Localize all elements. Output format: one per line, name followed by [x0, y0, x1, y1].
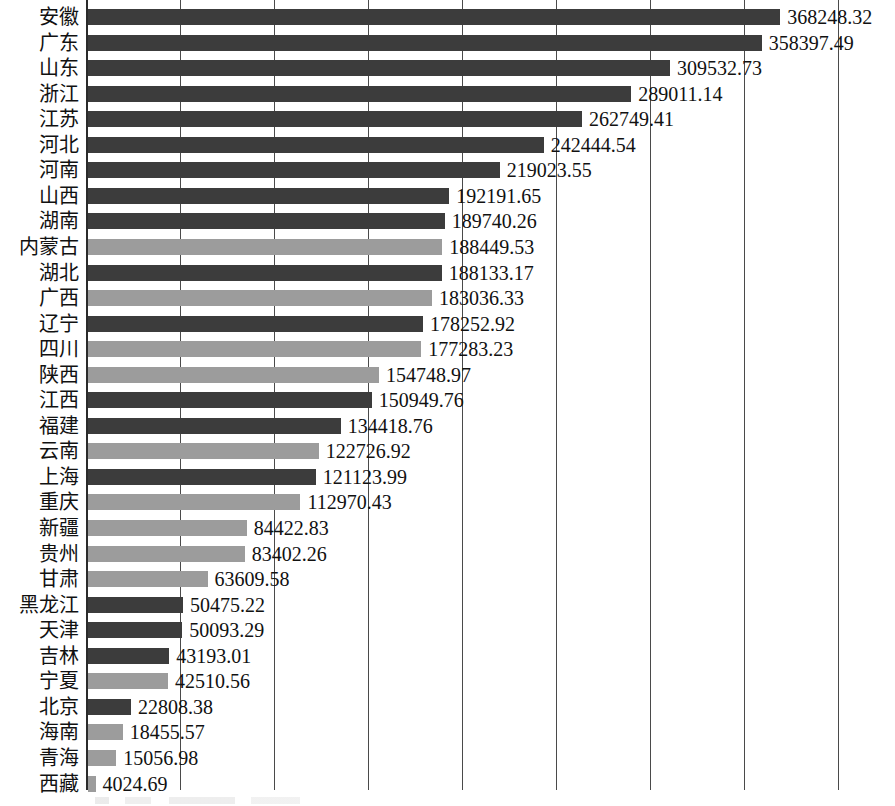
category-label: 新疆	[39, 518, 79, 538]
bar-row: 福建134418.76	[86, 413, 895, 439]
category-label: 安徽	[39, 7, 79, 27]
bar-row: 青海15056.98	[86, 745, 895, 771]
bar-row: 西藏4024.69	[86, 771, 895, 797]
bar-dark	[88, 699, 131, 715]
bar-light	[88, 546, 245, 562]
value-label: 154748.97	[386, 365, 471, 385]
bar-dark	[88, 9, 780, 25]
value-label: 22808.38	[138, 697, 213, 717]
bar-row: 浙江289011.14	[86, 81, 895, 107]
value-label: 262749.41	[589, 109, 674, 129]
value-label: 289011.14	[638, 84, 722, 104]
value-label: 134418.76	[348, 416, 433, 436]
category-label: 上海	[39, 467, 79, 487]
bar-light	[88, 341, 421, 357]
bar-dark	[88, 111, 582, 127]
value-label: 368248.32	[787, 7, 872, 27]
bar-dark	[88, 60, 670, 76]
bar-dark	[88, 392, 372, 408]
bar-light	[88, 443, 319, 459]
bar-dark	[88, 316, 423, 332]
category-label: 西藏	[39, 774, 79, 794]
bar-row: 内蒙古188449.53	[86, 234, 895, 260]
bar-light	[88, 750, 116, 766]
bar-dark	[88, 86, 631, 102]
value-label: 189740.26	[452, 211, 537, 231]
value-label: 50093.29	[189, 620, 264, 640]
value-label: 219023.55	[507, 160, 592, 180]
value-label: 50475.22	[190, 595, 265, 615]
bar-row: 新疆84422.83	[86, 515, 895, 541]
bar-light	[88, 367, 379, 383]
category-label: 海南	[39, 722, 79, 742]
bar-row: 山西192191.65	[86, 183, 895, 209]
bar-dark	[88, 213, 445, 229]
value-label: 178252.92	[430, 314, 515, 334]
category-label: 广西	[39, 288, 79, 308]
bar-light	[88, 494, 300, 510]
value-label: 122726.92	[326, 441, 411, 461]
category-label: 宁夏	[39, 671, 79, 691]
bar-row: 上海121123.99	[86, 464, 895, 490]
bar-row: 湖南189740.26	[86, 208, 895, 234]
bar-row: 重庆112970.43	[86, 489, 895, 515]
value-label: 112970.43	[307, 492, 391, 512]
category-label: 重庆	[39, 492, 79, 512]
bar-row: 四川177283.23	[86, 336, 895, 362]
category-label: 青海	[39, 748, 79, 768]
bar-row: 广东358397.49	[86, 30, 895, 56]
bar-dark	[88, 265, 442, 281]
value-label: 358397.49	[769, 33, 854, 53]
bar-row: 海南18455.57	[86, 719, 895, 745]
bar-light	[88, 520, 247, 536]
value-label: 84422.83	[254, 518, 329, 538]
category-label: 贵州	[39, 544, 79, 564]
bar-light	[88, 776, 96, 792]
bar-dark	[88, 622, 182, 638]
value-label: 183036.33	[439, 288, 524, 308]
bar-row: 贵州83402.26	[86, 541, 895, 567]
category-label: 广东	[39, 33, 79, 53]
category-label: 江西	[39, 390, 79, 410]
bar-dark	[88, 648, 169, 664]
category-label: 四川	[39, 339, 79, 359]
horizontal-bar-chart: 安徽368248.32广东358397.49山东309532.73浙江28901…	[0, 0, 895, 806]
bar-dark	[88, 35, 762, 51]
category-label: 云南	[39, 441, 79, 461]
category-label: 湖南	[39, 211, 79, 231]
bar-row: 江西150949.76	[86, 387, 895, 413]
bar-row: 安徽368248.32	[86, 4, 895, 30]
category-label: 北京	[39, 697, 79, 717]
bar-row: 云南122726.92	[86, 438, 895, 464]
bar-dark	[88, 418, 341, 434]
bar-row: 河北242444.54	[86, 132, 895, 158]
category-label: 内蒙古	[19, 237, 79, 257]
category-label: 甘肃	[39, 569, 79, 589]
bar-light	[88, 290, 432, 306]
category-label: 陕西	[39, 365, 79, 385]
bar-row: 湖北188133.17	[86, 260, 895, 286]
value-label: 83402.26	[252, 544, 327, 564]
category-label: 湖北	[39, 263, 79, 283]
category-label: 河北	[39, 135, 79, 155]
bar-light	[88, 724, 123, 740]
bar-light	[88, 239, 442, 255]
value-label: 150949.76	[379, 390, 464, 410]
bar-row: 吉林43193.01	[86, 643, 895, 669]
bar-dark	[88, 469, 316, 485]
value-label: 43193.01	[176, 646, 251, 666]
bar-row: 甘肃63609.58	[86, 566, 895, 592]
value-label: 15056.98	[123, 748, 198, 768]
category-label: 浙江	[39, 84, 79, 104]
category-label: 山西	[39, 186, 79, 206]
bar-dark	[88, 188, 449, 204]
category-label: 天津	[39, 620, 79, 640]
bar-row: 广西183036.33	[86, 285, 895, 311]
bar-light	[88, 673, 168, 689]
footer-artifact	[95, 797, 325, 804]
value-label: 188449.53	[449, 237, 534, 257]
bar-row: 辽宁178252.92	[86, 311, 895, 337]
bar-dark	[88, 162, 500, 178]
value-label: 4024.69	[103, 774, 168, 794]
category-label: 江苏	[39, 109, 79, 129]
